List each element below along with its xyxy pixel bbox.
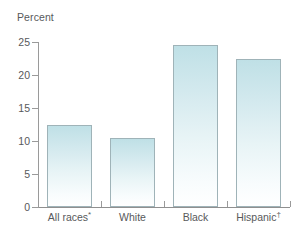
y-axis-line bbox=[38, 42, 39, 208]
bar-chart: Percent 0510152025 All races*WhiteBlackH… bbox=[0, 0, 297, 236]
y-axis-tick-label: 5 bbox=[2, 168, 30, 180]
y-axis-tick bbox=[32, 75, 39, 76]
y-axis-tick-label: 15 bbox=[2, 102, 30, 114]
y-axis-tick-label: 0 bbox=[2, 201, 30, 213]
bar bbox=[110, 138, 155, 207]
y-axis-title: Percent bbox=[17, 11, 54, 23]
y-axis-tick-label: 20 bbox=[2, 69, 30, 81]
x-axis-category-label: Hispanic† bbox=[236, 211, 281, 223]
category-name: White bbox=[119, 211, 146, 223]
x-axis-tick bbox=[290, 201, 291, 207]
y-axis-tick bbox=[32, 174, 39, 175]
y-axis-tick-label: 10 bbox=[2, 135, 30, 147]
bar bbox=[173, 45, 218, 207]
footnote-marker: * bbox=[88, 210, 91, 219]
bar bbox=[47, 125, 92, 208]
x-axis-category-label: Black bbox=[183, 211, 209, 223]
x-axis-tick bbox=[227, 201, 228, 207]
x-axis-category-label: White bbox=[119, 211, 146, 223]
y-axis-tick bbox=[32, 141, 39, 142]
category-name: Black bbox=[183, 211, 209, 223]
x-axis-line bbox=[38, 207, 290, 208]
x-axis-category-label: All races* bbox=[48, 211, 91, 223]
y-axis-tick-label: 25 bbox=[2, 36, 30, 48]
y-axis-tick bbox=[32, 108, 39, 109]
x-axis-tick bbox=[101, 201, 102, 207]
y-axis-tick bbox=[32, 207, 39, 208]
x-axis-tick bbox=[164, 201, 165, 207]
bar bbox=[236, 59, 281, 208]
category-name: All races bbox=[48, 211, 88, 223]
y-axis-tick bbox=[32, 42, 39, 43]
category-name: Hispanic bbox=[236, 211, 276, 223]
footnote-marker: † bbox=[276, 210, 280, 219]
